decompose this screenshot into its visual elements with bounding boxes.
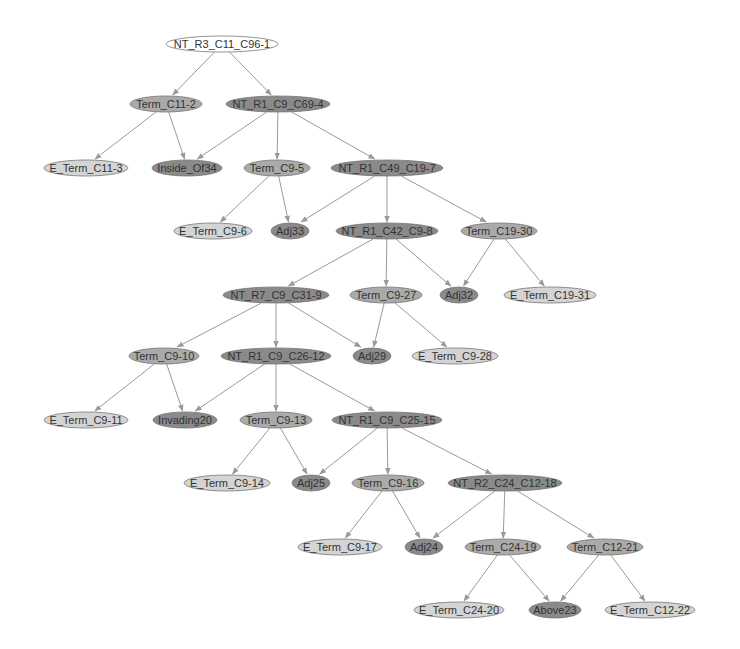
edge <box>374 303 385 347</box>
tree-node[interactable]: Adj24 <box>405 539 443 555</box>
tree-node[interactable]: E_Term_C11-3 <box>44 160 128 176</box>
edge <box>277 112 278 159</box>
node-label: Adj32 <box>445 289 473 301</box>
node-label: Adj33 <box>276 225 304 237</box>
edge <box>301 176 375 222</box>
edge <box>396 239 451 286</box>
edge <box>433 491 495 538</box>
node-label: E_Term_C19-31 <box>510 289 590 301</box>
tree-node[interactable]: Adj29 <box>353 348 391 364</box>
tree-node[interactable]: E_Term_C9-11 <box>44 412 128 428</box>
tree-node[interactable]: NT_R7_C9_C31-9 <box>223 287 329 303</box>
tree-node[interactable]: E_Term_C12-22 <box>605 602 695 618</box>
node-label: Term_C9-16 <box>358 477 419 489</box>
node-label: NT_R1_C9_C25-15 <box>338 414 435 426</box>
node-label: E_Term_C11-3 <box>49 162 122 174</box>
node-label: Term_C11-2 <box>136 98 196 110</box>
edge <box>233 428 270 474</box>
tree-node[interactable]: NT_R1_C9_C26-12 <box>221 348 331 364</box>
edge <box>289 303 361 347</box>
tree-node[interactable]: NT_R3_C11_C96-1 <box>166 36 278 52</box>
edge <box>95 364 154 411</box>
node-label: NT_R1_C49_C19-7 <box>338 162 435 174</box>
edge <box>510 555 549 601</box>
node-label: Above23 <box>533 604 576 616</box>
tree-node[interactable]: E_Term_C9-6 <box>174 223 252 239</box>
node-label: E_Term_C9-17 <box>303 541 377 553</box>
tree-node[interactable]: E_Term_C9-28 <box>412 348 498 364</box>
node-label: Term_C19-30 <box>466 225 533 237</box>
tree-node[interactable]: Above23 <box>529 602 581 618</box>
node-label: Inside_Of34 <box>157 162 216 174</box>
node-label: Adj24 <box>410 541 438 553</box>
edge <box>387 428 388 474</box>
edge <box>177 303 261 347</box>
tree-node[interactable]: NT_R1_C42_C9-8 <box>336 223 438 239</box>
node-label: E_Term_C9-6 <box>179 225 247 237</box>
tree-node[interactable]: NT_R2_C24_C12-18 <box>448 475 562 491</box>
node-label: NT_R1_C9_C69-4 <box>232 98 323 110</box>
tree-node[interactable]: Term_C9-27 <box>350 287 422 303</box>
edge <box>173 52 215 95</box>
edge <box>505 239 544 286</box>
edge <box>518 491 594 538</box>
tree-node[interactable]: NT_R1_C49_C19-7 <box>331 160 443 176</box>
edge <box>229 52 271 95</box>
edge <box>195 364 264 411</box>
tree-node[interactable]: E_Term_C24-20 <box>414 602 504 618</box>
node-label: Term_C9-13 <box>246 414 307 426</box>
tree-node[interactable]: E_Term_C19-31 <box>504 287 596 303</box>
node-label: Adj25 <box>297 477 325 489</box>
tree-node[interactable]: Adj32 <box>440 287 478 303</box>
edge <box>503 491 505 538</box>
tree-node[interactable]: Inside_Of34 <box>152 160 222 176</box>
tree-node[interactable]: Invading20 <box>153 412 217 428</box>
edge <box>464 239 495 286</box>
tree-node[interactable]: Term_C19-30 <box>461 223 537 239</box>
node-label: Term_C24-19 <box>470 541 537 553</box>
edge <box>280 428 307 474</box>
edge <box>561 555 599 601</box>
edge <box>95 112 156 159</box>
tree-node[interactable]: E_Term_C9-14 <box>184 475 270 491</box>
node-label: E_Term_C9-14 <box>190 477 264 489</box>
node-label: E_Term_C9-11 <box>49 414 122 426</box>
edge <box>393 491 420 538</box>
node-label: Invading20 <box>158 414 212 426</box>
tree-node[interactable]: Term_C12-21 <box>567 539 643 555</box>
tree-node[interactable]: NT_R1_C9_C69-4 <box>226 96 330 112</box>
node-label: E_Term_C12-22 <box>610 604 690 616</box>
edge <box>320 428 378 474</box>
node-label: NT_R2_C24_C12-18 <box>453 477 556 489</box>
edge <box>464 555 497 601</box>
node-label: NT_R7_C9_C31-9 <box>230 289 321 301</box>
edge <box>292 112 375 159</box>
tree-node[interactable]: Term_C9-16 <box>352 475 424 491</box>
tree-node[interactable]: Term_C9-13 <box>240 412 312 428</box>
node-label: Term_C9-27 <box>356 289 417 301</box>
node-label: E_Term_C24-20 <box>419 604 499 616</box>
tree-node[interactable]: Term_C9-5 <box>244 160 310 176</box>
edge <box>395 303 447 347</box>
node-label: Adj29 <box>358 350 386 362</box>
tree-node[interactable]: Term_C9-10 <box>129 348 199 364</box>
edge <box>167 364 183 411</box>
edge <box>345 491 382 538</box>
node-label: NT_R1_C9_C26-12 <box>227 350 324 362</box>
tree-node[interactable]: Adj25 <box>292 475 330 491</box>
node-label: E_Term_C9-28 <box>418 350 492 362</box>
edge <box>401 176 486 222</box>
node-label: Term_C9-10 <box>134 350 195 362</box>
tree-node[interactable]: Term_C24-19 <box>465 539 541 555</box>
tree-node[interactable]: E_Term_C9-17 <box>298 539 382 555</box>
tree-node[interactable]: NT_R1_C9_C25-15 <box>332 412 442 428</box>
tree-node[interactable]: Adj33 <box>271 223 309 239</box>
edge <box>402 428 492 474</box>
edge <box>386 239 387 286</box>
edge <box>288 239 373 286</box>
edge <box>290 364 375 411</box>
edge <box>169 112 185 159</box>
edge <box>220 176 269 222</box>
node-label: NT_R1_C42_C9-8 <box>341 225 432 237</box>
tree-node[interactable]: Term_C11-2 <box>130 96 202 112</box>
